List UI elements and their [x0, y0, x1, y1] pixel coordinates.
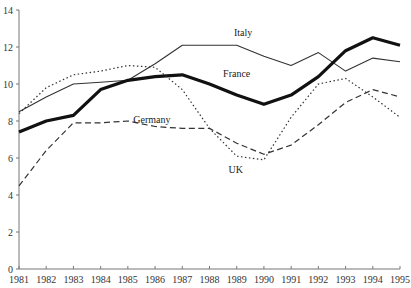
x-tick-label: 1982 — [36, 274, 56, 285]
x-tick-label: 1991 — [281, 274, 301, 285]
series-lines — [19, 38, 400, 186]
x-tick-label: 1990 — [254, 274, 274, 285]
y-tick-label: 6 — [8, 153, 13, 164]
series-label-italy: Italy — [234, 27, 252, 38]
series-line-germany — [19, 90, 400, 186]
x-tick-label: 1987 — [172, 274, 192, 285]
y-tick-label: 2 — [8, 227, 13, 238]
y-tick-label: 10 — [3, 79, 13, 90]
x-tick-label: 1986 — [145, 274, 165, 285]
y-tick-label: 8 — [8, 116, 13, 127]
x-tick-label: 1994 — [363, 274, 383, 285]
x-tick-label: 1993 — [336, 274, 356, 285]
series-labels: ItalyFranceGermanyUK — [133, 27, 252, 175]
x-tick-label: 1984 — [91, 274, 111, 285]
x-tick-label: 1985 — [118, 274, 138, 285]
series-label-france: France — [223, 68, 251, 79]
x-tick-label: 1995 — [390, 274, 410, 285]
y-tick-label: 4 — [8, 190, 13, 201]
line-chart: 0246810121419811982198319841985198619871… — [0, 0, 411, 288]
x-tick-label: 1989 — [227, 274, 247, 285]
series-line-france — [19, 38, 400, 132]
x-tick-label: 1992 — [308, 274, 328, 285]
x-tick-label: 1988 — [200, 274, 220, 285]
series-label-germany: Germany — [133, 114, 170, 125]
y-tick-label: 14 — [3, 5, 13, 16]
y-tick-label: 12 — [3, 42, 13, 53]
axes: 0246810121419811982198319841985198619871… — [3, 5, 410, 286]
y-tick-label: 0 — [8, 264, 13, 275]
series-label-uk: UK — [229, 164, 244, 175]
x-tick-label: 1981 — [9, 274, 29, 285]
x-tick-label: 1983 — [63, 274, 83, 285]
